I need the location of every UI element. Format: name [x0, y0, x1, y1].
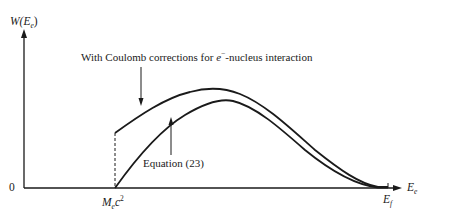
- y-axis-arrow-icon: [21, 29, 27, 38]
- equation-23-curve: [115, 100, 388, 188]
- endpoint-tick-label: Ef: [383, 194, 392, 208]
- x-axis-label: Ee: [407, 182, 417, 196]
- beta-spectrum-plot: [0, 0, 450, 214]
- coulomb-pointer-arrow-icon: [139, 98, 144, 106]
- x-axis-arrow-icon: [393, 185, 402, 191]
- equation-23-annotation: Equation (23): [143, 158, 204, 169]
- coulomb-annotation: With Coulomb corrections for e−-nucleus …: [81, 50, 312, 63]
- y-zero-label: 0: [9, 182, 15, 194]
- y-axis-label: W(Ee): [10, 16, 38, 30]
- equation-pointer-arrow-icon: [169, 117, 174, 125]
- rest-energy-tick-label: Mec2: [102, 195, 124, 211]
